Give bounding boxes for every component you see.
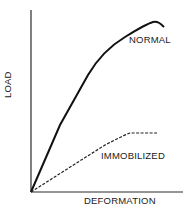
immobilized-curve (31, 133, 157, 192)
x-axis-label: DEFORMATION (84, 195, 156, 206)
immobilized-series-label: IMMOBILIZED (101, 150, 165, 161)
load-deformation-chart (0, 0, 190, 212)
y-axis-label: LOAD (2, 71, 13, 98)
normal-series-label: NORMAL (129, 34, 171, 45)
normal-curve (31, 22, 164, 192)
